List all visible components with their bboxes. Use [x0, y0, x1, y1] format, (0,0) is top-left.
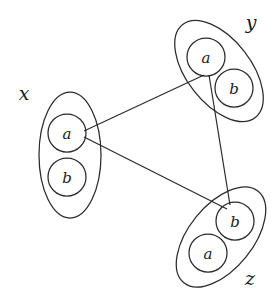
node-x-a[interactable]: a: [48, 114, 86, 152]
group-x[interactable]: a b x: [19, 82, 101, 218]
node-y-a[interactable]: a: [187, 38, 225, 76]
group-z-label: z: [244, 267, 256, 289]
group-y-label: y: [245, 11, 257, 33]
group-x-label: x: [19, 82, 30, 104]
node-y-b-label: b: [229, 80, 239, 98]
node-z-a-label: a: [204, 245, 213, 263]
group-z[interactable]: b a z: [159, 171, 279, 302]
edge-xa-ya[interactable]: [84, 75, 204, 131]
edge-ya-zb[interactable]: [209, 75, 230, 205]
node-x-a-label: a: [63, 125, 72, 143]
node-y-a-label: a: [202, 49, 211, 67]
node-z-a[interactable]: a: [189, 234, 227, 272]
diagram-canvas: a b x a b y b: [0, 0, 279, 302]
node-y-b[interactable]: b: [215, 69, 253, 107]
node-x-b[interactable]: b: [48, 158, 86, 196]
group-x-outline[interactable]: [39, 92, 101, 218]
diagram-svg: a b x a b y b: [0, 0, 279, 302]
node-z-b-label: b: [230, 213, 240, 231]
group-y[interactable]: a b y: [157, 5, 279, 137]
node-x-b-label: b: [62, 169, 72, 187]
edge-xa-zb[interactable]: [84, 137, 227, 209]
group-z-outline[interactable]: [159, 171, 279, 302]
edges-layer: [84, 75, 230, 209]
node-z-b[interactable]: b: [216, 202, 254, 240]
